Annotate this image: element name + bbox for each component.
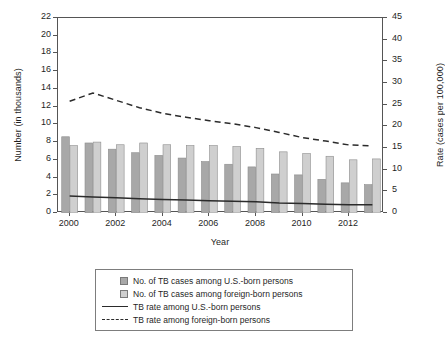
y-axis-left-tick-label: 0 (29, 206, 51, 216)
bar-foreign-born (93, 142, 101, 213)
y-axis-right-tick-label: 15 (392, 141, 414, 151)
legend-item-us-born-rate: TB rate among U.S.-born persons (102, 300, 346, 313)
y-axis-right-tick-label: 40 (392, 33, 414, 43)
bar-foreign-born (373, 159, 381, 213)
legend-swatch-foreign-born (102, 290, 132, 298)
legend-swatch-us-born (102, 277, 132, 285)
y-axis-left-tick-label: 16 (29, 64, 51, 74)
y-axis-right-tick-label: 5 (392, 184, 414, 194)
bar-us-born (62, 137, 70, 213)
y-axis-right-tick-label: 10 (392, 163, 414, 173)
y-axis-left-tick-label: 6 (29, 153, 51, 163)
y-axis-left-tick-label: 22 (29, 11, 51, 21)
bar-us-born (201, 162, 209, 213)
y-axis-left-tick-label: 12 (29, 100, 51, 110)
x-axis-title: Year (57, 237, 383, 247)
legend-label-foreign-born-rate: TB rate among foreign-born persons (132, 315, 270, 325)
legend-item-us-born-cases: No. of TB cases among U.S.-born persons (102, 274, 346, 287)
y-axis-left-tick-label: 14 (29, 82, 51, 92)
y-axis-right-tick-label: 30 (392, 76, 414, 86)
bar-foreign-born (116, 145, 124, 213)
bar-us-born (155, 155, 163, 213)
bar-us-born (364, 185, 372, 213)
y-axis-left-title: Number (in thousands) (13, 35, 23, 195)
legend-item-foreign-born-cases: No. of TB cases among foreign-born perso… (102, 287, 346, 300)
legend-item-foreign-born-rate: TB rate among foreign-born persons (102, 313, 346, 326)
x-axis-tick-label: 2004 (142, 218, 182, 228)
legend-label-us-born-cases: No. of TB cases among U.S.-born persons (132, 276, 293, 286)
x-axis-tick-label: 2002 (95, 218, 135, 228)
plot-svg (58, 18, 384, 213)
y-axis-left-tick-label: 4 (29, 171, 51, 181)
y-axis-left-tick-label: 10 (29, 117, 51, 127)
legend-line-dashed-icon (102, 319, 132, 320)
y-axis-right-tick-label: 45 (392, 11, 414, 21)
x-axis-tick-label: 2008 (235, 218, 275, 228)
y-axis-right-title: Rate (cases per 100,000) (435, 25, 445, 205)
bar-us-born (318, 179, 326, 213)
bar-us-born (271, 174, 279, 213)
chart-legend: No. of TB cases among U.S.-born persons … (95, 269, 353, 331)
y-axis-right-tick-label: 35 (392, 54, 414, 64)
bar-foreign-born (163, 145, 171, 213)
bar-foreign-born (70, 146, 78, 213)
y-axis-right-tick-label: 0 (392, 206, 414, 216)
x-axis-tick-label: 2006 (188, 218, 228, 228)
bar-foreign-born (140, 143, 148, 213)
x-axis-tick-label: 2010 (282, 218, 322, 228)
y-axis-left-tick-label: 20 (29, 29, 51, 39)
y-axis-right-tick-label: 20 (392, 119, 414, 129)
y-axis-left-tick-mark (53, 212, 57, 213)
plot-area (57, 17, 383, 212)
y-axis-right-tick-label: 25 (392, 98, 414, 108)
legend-label-us-born-rate: TB rate among U.S.-born persons (132, 302, 261, 312)
bar-foreign-born (186, 146, 194, 213)
bar-us-born (341, 183, 349, 213)
x-axis-tick-label: 2000 (49, 218, 89, 228)
y-axis-left-tick-label: 8 (29, 135, 51, 145)
bar-us-born (85, 143, 93, 213)
legend-line-solid-icon (102, 306, 132, 307)
bar-us-born (178, 158, 186, 213)
y-axis-left-tick-label: 18 (29, 46, 51, 56)
bar-foreign-born (210, 146, 218, 213)
legend-label-foreign-born-cases: No. of TB cases among foreign-born perso… (132, 289, 302, 299)
y-axis-left-tick-label: 2 (29, 188, 51, 198)
bar-us-born (108, 149, 116, 213)
bar-us-born (132, 153, 140, 213)
x-axis-tick-label: 2012 (328, 218, 368, 228)
bar-us-born (295, 175, 303, 213)
bar-us-born (225, 164, 233, 213)
bar-foreign-born (256, 148, 264, 213)
bar-foreign-born (233, 147, 241, 213)
line-foreign-born-rate (70, 93, 373, 146)
bar-us-born (248, 167, 256, 213)
